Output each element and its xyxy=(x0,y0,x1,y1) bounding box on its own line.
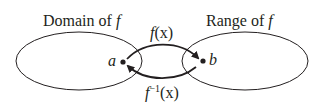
forward-arrow xyxy=(127,45,198,59)
forward-arrow-label: f(x) xyxy=(150,25,173,41)
point-a-label: a xyxy=(108,53,116,69)
point-b-label: b xyxy=(209,52,217,68)
range-label: Range of f xyxy=(206,13,273,29)
domain-label: Domain of f xyxy=(43,13,120,29)
range-func: f xyxy=(268,12,272,29)
domain-func: f xyxy=(116,12,120,29)
point-b-dot xyxy=(200,58,205,63)
inverse-arrow xyxy=(128,66,196,78)
point-a-dot xyxy=(120,59,125,64)
inverse-arrow-label: f−1(x) xyxy=(145,84,179,101)
